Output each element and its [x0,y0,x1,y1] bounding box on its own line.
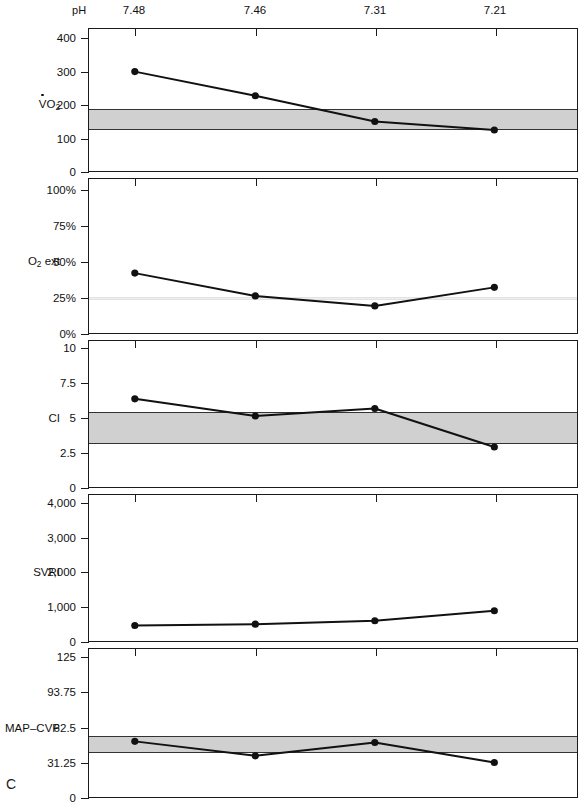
y-tick-mark [81,334,89,335]
y-tick-mark [81,105,89,106]
y-tick-label: 4,000 [0,497,76,509]
series-line [89,29,577,171]
plot-area-map-cvp [88,648,578,798]
y-tick-label: 0 [0,636,76,648]
y-tick-mark [81,503,89,504]
series-line [89,179,577,333]
data-point [252,752,259,759]
y-tick-label: 31.25 [0,757,76,769]
plot-area-ci [88,340,578,488]
x-tick-mark [376,649,377,656]
plot-area-svri [88,494,578,642]
y-tick-mark [81,488,89,489]
y-tick-mark [81,642,89,643]
series-line [89,649,577,797]
x-tick-mark [376,29,377,36]
y-axis-title: O2 ext [0,255,60,269]
y-tick-mark [81,692,89,693]
y-tick-mark [81,763,89,764]
x-tick-mark [496,649,497,656]
y-tick-label: 3,000 [0,532,76,544]
ph-axis-header: pH 7.487.467.317.21 [0,4,587,22]
data-point [131,738,138,745]
figure-panel-c: pH 7.487.467.317.21 C 0100200300400VO20%… [0,0,587,810]
y-tick-label: 2.5 [0,447,76,459]
data-point [491,127,498,134]
y-axis-title: VO2 [0,98,60,112]
data-point [371,739,378,746]
y-tick-label: 100 [0,133,76,145]
x-tick-mark [496,341,497,348]
data-point [371,302,378,309]
y-tick-mark [81,418,89,419]
y-tick-mark [81,572,89,573]
y-tick-mark [81,226,89,227]
plot-area-o2-ext [88,178,578,334]
y-tick-mark [81,453,89,454]
y-axis-title: SVRI [0,566,60,578]
y-tick-mark [81,798,89,799]
x-tick-mark [376,495,377,502]
y-tick-label: 10 [0,342,76,354]
y-tick-label: 0 [0,482,76,494]
y-tick-label: 100% [0,184,76,196]
y-tick-label: 1,000 [0,601,76,613]
x-tick-mark [496,495,497,502]
y-tick-mark [81,607,89,608]
x-tick-mark [376,341,377,348]
y-tick-mark [81,348,89,349]
y-tick-mark [81,383,89,384]
y-tick-mark [81,298,89,299]
x-tick-mark [496,29,497,36]
x-tick-mark [256,341,257,348]
x-tick-mark [376,179,377,186]
x-tick-mark [135,179,136,186]
data-point [491,759,498,766]
data-point [252,621,259,628]
y-tick-label: 7.5 [0,377,76,389]
data-point [131,68,138,75]
ph-axis-label: pH [72,4,86,16]
data-point [371,405,378,412]
ph-tick-label: 7.48 [123,4,145,16]
y-tick-label: 125 [0,651,76,663]
ph-tick-label: 7.31 [364,4,386,16]
y-tick-mark [81,38,89,39]
y-tick-mark [81,657,89,658]
x-tick-mark [135,29,136,36]
x-tick-mark [496,179,497,186]
ph-tick-label: 7.21 [484,4,506,16]
plot-area-vo2 [88,28,578,172]
y-tick-label: 0 [0,792,76,804]
data-point [252,413,259,420]
y-tick-mark [81,72,89,73]
data-point [371,617,378,624]
y-tick-mark [81,190,89,191]
x-tick-mark [256,29,257,36]
y-tick-label: 300 [0,66,76,78]
x-tick-mark [135,341,136,348]
data-point [252,92,259,99]
data-point [491,444,498,451]
series-line [89,495,577,641]
x-tick-mark [256,495,257,502]
y-tick-mark [81,139,89,140]
data-point [491,284,498,291]
y-tick-label: 0% [0,328,76,340]
y-tick-mark [81,172,89,173]
panel-letter: C [6,776,16,792]
y-tick-label: 25% [0,292,76,304]
y-tick-mark [81,262,89,263]
y-tick-label: 0 [0,166,76,178]
series-line [89,341,577,487]
y-axis-title: MAP–CVP [0,722,60,734]
y-tick-label: 400 [0,32,76,44]
x-tick-mark [135,495,136,502]
data-point [131,395,138,402]
y-tick-mark [81,538,89,539]
data-point [131,622,138,629]
ph-tick-label: 7.46 [244,4,266,16]
data-point [252,292,259,299]
y-tick-label: 93.75 [0,686,76,698]
y-tick-mark [81,728,89,729]
